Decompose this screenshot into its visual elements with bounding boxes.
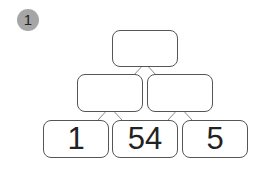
- pyramid-bottom-left-box[interactable]: 1: [43, 120, 109, 158]
- pyramid-middle-left-box[interactable]: [77, 74, 143, 112]
- pyramid-middle-right-box[interactable]: [147, 74, 213, 112]
- pyramid-bottom-center-box[interactable]: 54: [112, 120, 178, 158]
- pyramid-bottom-right-value: 5: [206, 121, 223, 157]
- pyramid-bottom-center-value: 54: [128, 121, 162, 157]
- pyramid-bottom-right-box[interactable]: 5: [182, 120, 248, 158]
- pyramid-bottom-left-value: 1: [67, 121, 84, 157]
- pyramid-top-box[interactable]: [112, 30, 178, 67]
